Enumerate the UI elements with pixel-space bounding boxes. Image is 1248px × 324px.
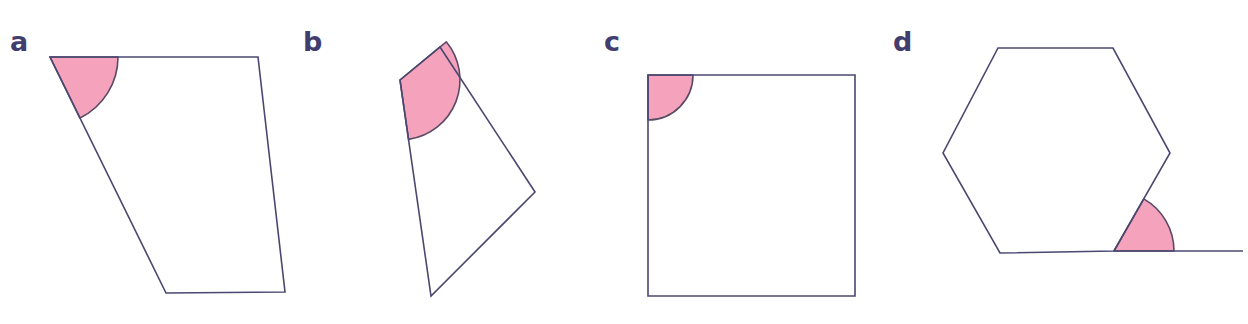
panel-label-c: c [604, 28, 620, 55]
panel-label-b: b [303, 28, 322, 55]
panel-b [400, 42, 535, 296]
panel-a [50, 57, 285, 293]
angle-marker-d [1114, 199, 1174, 251]
panel-c [648, 75, 855, 296]
panel-label-a: a [10, 28, 28, 55]
angle-marker-a [50, 57, 118, 118]
angle-marker-c [648, 75, 693, 120]
angle-marker-b [400, 42, 460, 140]
panel-d [943, 48, 1243, 253]
geometry-figure-canvas [0, 0, 1248, 324]
figure-page: a b c d [0, 0, 1248, 324]
panel-label-d: d [893, 28, 912, 55]
